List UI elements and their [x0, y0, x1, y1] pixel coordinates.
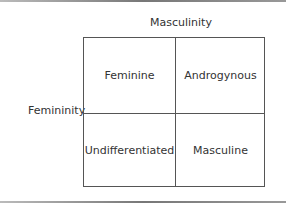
cell-masculine: Masculine: [175, 113, 266, 187]
masculinity-axis-label: Masculinity: [150, 16, 212, 29]
top-rule: [0, 0, 286, 2]
cell-undifferentiated: Undifferentiated: [84, 113, 175, 187]
bottom-rule: [0, 201, 286, 203]
quadrant-grid: Feminine Androgynous Undifferentiated Ma…: [83, 37, 265, 187]
cell-androgynous: Androgynous: [175, 38, 266, 112]
cell-feminine: Feminine: [84, 38, 175, 112]
femininity-axis-label: Femininity: [28, 104, 85, 117]
